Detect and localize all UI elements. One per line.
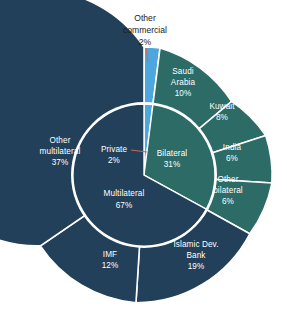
label-india-line1: India [223, 143, 242, 152]
label-saudi-arabia-line2: Arabia [171, 78, 196, 87]
label-multilateral-value: 67% [116, 201, 133, 210]
callout-other-commercial-line1: Other [134, 13, 156, 23]
inner-ring-group [71, 102, 217, 248]
label-imf-value: 12% [102, 261, 119, 270]
label-other-bilateral-line2: bilateral [213, 186, 243, 195]
callout-other-commercial-value: 2% [139, 37, 152, 47]
label-kuwait-line1: Kuwait [209, 102, 235, 111]
label-islamic-dev-bank-line1: Islamic Dev. [173, 240, 218, 249]
label-islamic-dev-bank-value: 19% [188, 262, 205, 271]
label-imf-line1: IMF [103, 250, 117, 259]
label-private-line1: Private [101, 145, 128, 154]
label-islamic-dev-bank-line2: Bank [186, 251, 206, 260]
label-other-multilateral-line2: multilateral [40, 147, 81, 156]
label-other-multilateral-value: 37% [52, 158, 69, 167]
label-other-multilateral-line1: Other [50, 136, 71, 145]
callout-other-commercial-line2: commercial [123, 25, 167, 35]
label-bilateral-value: 31% [164, 160, 181, 169]
sunburst-chart: Saudi Arabia 10% Kuwait 8% India 6% Othe… [0, 0, 287, 334]
label-private-value: 2% [108, 156, 120, 165]
label-saudi-arabia-value: 10% [175, 89, 192, 98]
label-multilateral-line1: Multilateral [104, 189, 145, 198]
label-other-bilateral-line1: Other [218, 175, 239, 184]
label-bilateral-line1: Bilateral [157, 149, 188, 158]
sunburst-svg: Saudi Arabia 10% Kuwait 8% India 6% Othe… [0, 0, 287, 334]
label-india-value: 6% [226, 154, 238, 163]
label-other-bilateral-value: 6% [222, 197, 234, 206]
label-kuwait-value: 8% [216, 113, 228, 122]
label-saudi-arabia-line1: Saudi [172, 67, 194, 76]
